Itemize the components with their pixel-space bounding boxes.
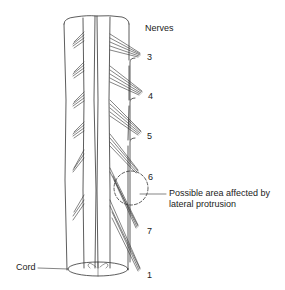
affected-area-circle <box>114 171 148 205</box>
spinal-cord-diagram <box>0 0 285 290</box>
nerve-number-1: 1 <box>147 270 152 281</box>
nerve-number-6: 6 <box>148 172 153 183</box>
nerve-number-3: 3 <box>147 52 152 63</box>
annotation-line-2: lateral protrusion <box>169 199 236 210</box>
nerves-heading: Nerves <box>145 23 174 34</box>
cord-label: Cord <box>16 262 36 273</box>
cord-cross-section <box>68 262 128 276</box>
cord-leader <box>38 268 68 269</box>
annotation-line-1: Possible area affected by <box>169 188 270 199</box>
right-nerve-roots <box>110 34 142 271</box>
nerve-number-5: 5 <box>147 131 152 142</box>
nerve-number-4: 4 <box>148 91 153 102</box>
left-nerve-roots <box>73 32 84 220</box>
nerve-number-7: 7 <box>147 226 152 237</box>
